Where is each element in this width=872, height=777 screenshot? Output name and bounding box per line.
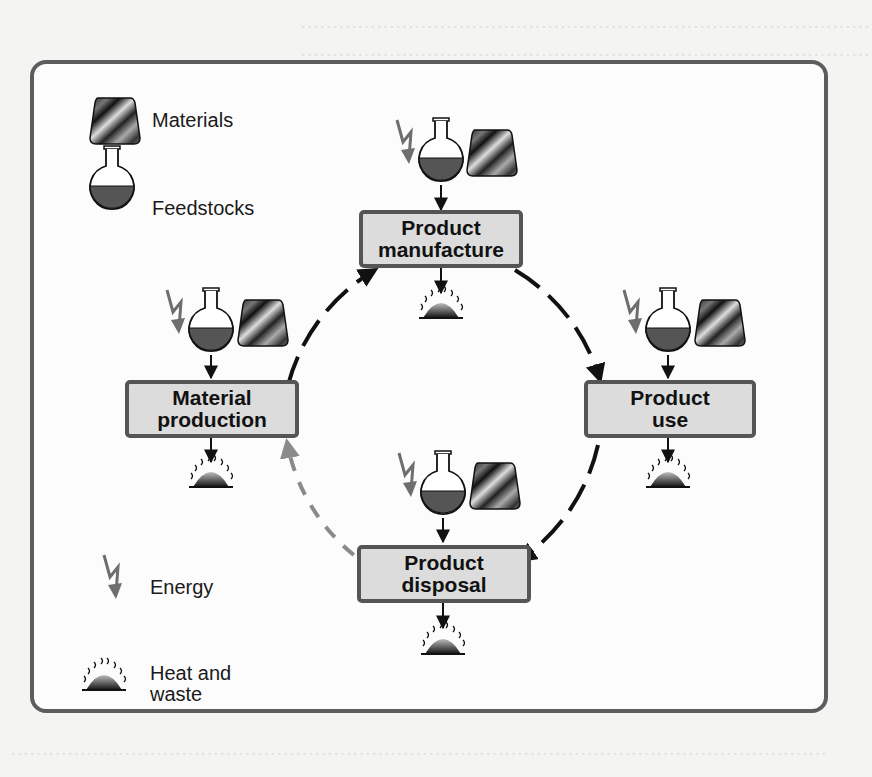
stage-label-line1: Product: [378, 217, 504, 239]
disposal-feedstock-icon: [421, 451, 465, 514]
production-material-icon: [238, 300, 288, 346]
legend-heat-waste-label: Heat and waste: [150, 663, 231, 705]
production-feedstock-icon: [189, 288, 233, 351]
legend-feedstocks-icon: [90, 146, 134, 209]
cycle-arrow-manufacture-to-use: [515, 270, 600, 380]
disposal-material-icon: [470, 463, 520, 509]
manufacture-material-icon: [467, 130, 517, 176]
stage-product-use: Productuse: [584, 380, 756, 438]
cycle-arrow-production-to-manufacture: [288, 270, 375, 385]
legend-materials-label: Materials: [152, 110, 233, 131]
legend-heat-label-line1: Heat and: [150, 663, 231, 684]
disposal-energy-icon: [399, 453, 417, 497]
stage-label-line1: Product: [630, 387, 709, 409]
production-energy-icon: [167, 290, 185, 334]
use-energy-icon: [624, 290, 642, 334]
stage-product-manufacture: Productmanufacture: [359, 210, 523, 268]
manufacture-feedstock-icon: [419, 118, 463, 181]
legend-energy-icon: [104, 555, 122, 599]
stage-label-line1: Material: [157, 387, 267, 409]
stage-label-line1: Product: [401, 552, 486, 574]
stage-label-line2: disposal: [401, 574, 486, 596]
cycle-arrow-use-to-disposal: [520, 445, 598, 560]
legend-materials-icon: [90, 98, 140, 144]
legend-energy-label: Energy: [150, 577, 213, 598]
stage-product-disposal: Productdisposal: [357, 545, 531, 603]
legend-heat-label-line2: waste: [150, 684, 231, 705]
legend-feedstocks-label: Feedstocks: [152, 198, 254, 219]
stage-label-line2: manufacture: [378, 239, 504, 261]
stage-label-line2: use: [630, 409, 709, 431]
use-material-icon: [695, 300, 745, 346]
stage-label-line2: production: [157, 409, 267, 431]
use-feedstock-icon: [646, 288, 690, 351]
manufacture-energy-icon: [397, 120, 415, 164]
legend-heat-waste-icon: [82, 658, 126, 690]
stage-material-production: Materialproduction: [125, 380, 299, 438]
